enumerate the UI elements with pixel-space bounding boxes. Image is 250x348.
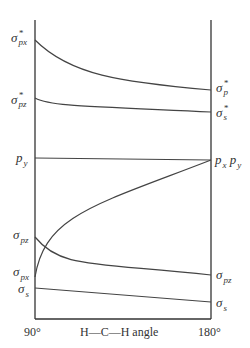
- curve-py: [35, 158, 211, 160]
- label-left-sigma-pz: σpz: [13, 228, 28, 241]
- curve-sigma-star-pz: [35, 98, 211, 112]
- curve-sigma-s: [35, 288, 211, 302]
- label-right-sigma-pz: σpz: [216, 268, 231, 281]
- label-left-sigma-px: σpx: [13, 265, 29, 278]
- curve-sigma-pz: [35, 237, 211, 275]
- x-axis-left-label: 90°: [24, 325, 41, 340]
- x-axis-right-label: 180°: [198, 325, 221, 340]
- label-right-sigma-s: σs: [216, 296, 227, 309]
- label-left-sigma-star-px: σ*px: [11, 30, 27, 48]
- x-axis-title: H—C—H angle: [80, 325, 158, 340]
- label-right-sigma-star-s: σ*s: [216, 105, 228, 123]
- label-left-py: py: [16, 151, 28, 164]
- label-left-sigma-s: σs: [18, 282, 29, 295]
- label-right-sigma-star-p: σ*p: [216, 80, 228, 98]
- label-left-sigma-star-pz: σ*pz: [11, 92, 26, 110]
- curve-sigma-px: [35, 160, 211, 277]
- label-right-px-py: px py: [215, 153, 241, 166]
- curve-sigma-star-px: [35, 40, 211, 90]
- walsh-diagram-canvas: [0, 0, 250, 348]
